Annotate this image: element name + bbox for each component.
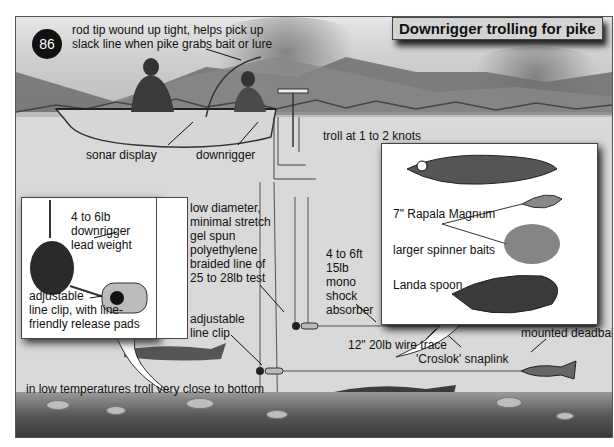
downrigger-label: downrigger: [196, 148, 255, 162]
lure-label-rapala: 7" Rapala Magnum: [393, 207, 495, 221]
braided-line-label-line: 25 to 28lb test: [190, 271, 271, 285]
braided-line-label: low diameter, minimal stretch gel spun p…: [190, 201, 271, 285]
low-temp-note: in low temperatures troll very close to …: [26, 382, 264, 396]
spinner-blade: [522, 195, 562, 208]
deadbait-fish: [521, 361, 576, 379]
pike-left: [124, 343, 226, 361]
adjustable-clip-label: adjustable line clip: [190, 312, 245, 340]
adjustable-clip-label-line: adjustable: [190, 312, 245, 326]
rod-tip-label-line: rod tip wound up tight, helps pick up: [72, 23, 272, 37]
braided-line-label-line: low diameter,: [190, 201, 271, 215]
lead-weight-inset-side: [156, 197, 188, 339]
adjustable-clip-inset-label: adjustable line clip, with line- friendl…: [29, 289, 140, 331]
mounted-deadbait-label: mounted deadbait: [521, 326, 613, 340]
braided-line-label-line: polyethylene: [190, 243, 271, 257]
shock-absorber-label-line: 15lb: [326, 261, 373, 275]
lure-label-landa: Landa spoon: [393, 278, 462, 292]
figure-number-badge: 86: [32, 29, 62, 59]
angler-1: [131, 75, 174, 112]
downrigger-arm: [278, 89, 308, 93]
lures-drawing: [382, 144, 597, 324]
lake-bottom: [16, 392, 612, 437]
shock-absorber-label-line: absorber: [326, 303, 373, 317]
lead-weight-ball: [30, 241, 74, 295]
rapala-lure: [407, 155, 557, 184]
rod-tip-label-line: slack line when pike grabs bait or lure: [72, 37, 272, 51]
clip-inset-label-line: line clip, with line-: [29, 303, 140, 317]
lead-weight-label-line: downrigger: [71, 224, 132, 238]
wire-trace-label: 12" 20lb wire trace: [348, 338, 447, 352]
sonar-display-label: sonar display: [86, 148, 157, 162]
braided-line-label-line: braided line of: [190, 257, 271, 271]
lure-label-spinner: larger spinner baits: [393, 243, 495, 257]
boat: [56, 109, 276, 147]
lead-weight-label-line: lead weight: [71, 238, 132, 252]
rod-tip-label: rod tip wound up tight, helps pick up sl…: [72, 23, 272, 51]
lead-weight-label-line: 4 to 6lb: [71, 210, 132, 224]
lead-weight-label: 4 to 6lb downrigger lead weight: [71, 210, 132, 252]
braided-line-label-line: gel spun: [190, 229, 271, 243]
clip-inset-label-line: friendly release pads: [29, 317, 140, 331]
clip-inset-label-line: adjustable: [29, 289, 140, 303]
braided-line-label-line: minimal stretch: [190, 215, 271, 229]
shock-absorber-label-line: shock: [326, 289, 373, 303]
spinner-skirt: [504, 224, 560, 264]
shock-absorber-label: 4 to 6ft 15lb mono shock absorber: [326, 247, 373, 317]
illustration-frame: 86 rod tip wound up tight, helps pick up…: [15, 16, 613, 438]
adjustable-clip-label-line: line clip: [190, 326, 245, 340]
shock-absorber-label-line: 4 to 6ft: [326, 247, 373, 261]
shock-absorber-label-line: mono: [326, 275, 373, 289]
snaplink-label: 'Croslok' snaplink: [416, 352, 509, 366]
figure-title: Downrigger trolling for pike: [392, 17, 603, 40]
angler-1-head: [143, 58, 159, 76]
lures-inset: [381, 143, 598, 325]
troll-speed-label: troll at 1 to 2 knots: [323, 129, 421, 143]
angler-2-head: [241, 71, 255, 87]
landa-spoon: [452, 275, 558, 313]
